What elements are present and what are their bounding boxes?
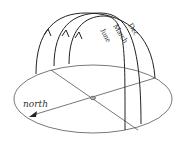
march-direction-arrow-icon [62,30,69,37]
label-dec: Dec [126,21,141,37]
observer-point [90,96,95,100]
label-june: June [98,27,113,45]
june-direction-arrow-icon [75,32,82,39]
sun-path-diagram: Dec March June north [0,0,180,150]
diagram-canvas: Dec March June north [0,0,180,150]
sun-path-dec [36,13,155,78]
north-arrow-head-icon [29,111,37,117]
label-north: north [23,99,48,109]
